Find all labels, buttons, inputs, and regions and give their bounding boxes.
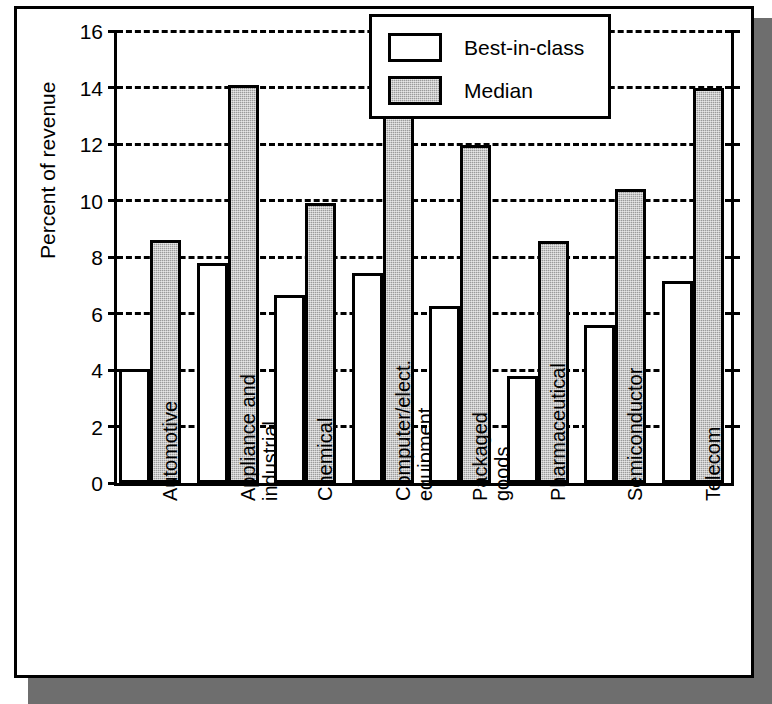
bar-best [507, 376, 538, 483]
y-axis-tick-label: 0 [91, 473, 103, 494]
y-axis-tick-right [731, 86, 740, 89]
y-axis-tick-right [731, 369, 740, 372]
y-axis-tick-label: 2 [91, 416, 103, 437]
y-axis-tick-label: 4 [91, 360, 103, 381]
figure-root: Percent of revenue 1614121086420Automoti… [0, 0, 772, 704]
bar-median [693, 88, 724, 484]
legend-entry-best-in-class: Best-in-class [388, 33, 584, 62]
bar-best [662, 281, 693, 483]
y-axis-tick-left [108, 482, 117, 485]
y-axis-tick-right [731, 425, 740, 428]
y-axis-tick-label: 14 [80, 77, 103, 98]
chart-legend: Best-in-class Median [369, 14, 611, 119]
legend-label-best-in-class: Best-in-class [464, 37, 584, 58]
y-axis-tick-left [108, 425, 117, 428]
y-axis-tick-left [108, 30, 117, 33]
y-axis-tick-right [731, 256, 740, 259]
y-axis-tick-left [108, 369, 117, 372]
legend-label-median: Median [464, 80, 533, 101]
gridline [117, 143, 731, 146]
y-axis-tick-label: 8 [91, 247, 103, 268]
y-axis-tick-left [108, 143, 117, 146]
bar-best [352, 273, 383, 483]
legend-swatch-best-in-class [388, 33, 442, 62]
y-axis-title: Percent of revenue [37, 82, 58, 259]
y-axis-tick-right [731, 143, 740, 146]
bar-best [197, 263, 228, 483]
y-axis-tick-left [108, 312, 117, 315]
bar-best [119, 369, 150, 483]
y-axis-tick-right [731, 312, 740, 315]
y-axis-tick-label: 6 [91, 303, 103, 324]
y-axis-tick-right [731, 199, 740, 202]
y-axis-tick-left [108, 199, 117, 202]
x-axis-category-label: Chemical [315, 418, 337, 501]
x-axis-category-label: Pharmaceutical [548, 363, 570, 501]
y-axis-tick-right [731, 30, 740, 33]
bar-best [274, 295, 305, 483]
y-axis-tick-left [108, 86, 117, 89]
x-axis-category-label: Automotive [160, 401, 182, 501]
y-axis-tick-left [108, 256, 117, 259]
legend-entry-median: Median [388, 76, 533, 105]
y-axis-tick-label: 12 [80, 134, 103, 155]
y-axis-tick-label: 16 [80, 21, 103, 42]
bar-best [429, 306, 460, 483]
bar-best [584, 325, 615, 483]
y-axis-tick-label: 10 [80, 190, 103, 211]
figure-frame: Percent of revenue 1614121086420Automoti… [14, 6, 754, 678]
legend-swatch-median [388, 76, 442, 105]
x-axis-category-label: Telecom [703, 427, 725, 501]
x-axis-category-label: Semiconductor [625, 368, 647, 501]
